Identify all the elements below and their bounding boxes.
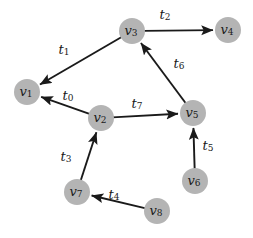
nodes-layer: v1v2v3v4v5v6v7v8 <box>14 17 241 224</box>
edge-t2 <box>143 30 213 31</box>
edge-label-t0: t0 <box>63 88 74 104</box>
edge-label-t5: t5 <box>203 138 214 154</box>
edge-t6 <box>141 43 186 104</box>
node-circle-v3 <box>119 18 145 44</box>
node-v5: v5 <box>180 100 206 126</box>
node-v1: v1 <box>14 79 40 105</box>
node-v7: v7 <box>64 179 90 205</box>
edge-t0 <box>41 97 90 114</box>
node-v4: v4 <box>215 17 241 43</box>
edge-label-t6: t6 <box>174 56 185 72</box>
edge-t3 <box>81 132 97 181</box>
node-v3: v3 <box>119 18 145 44</box>
edge-t1 <box>40 37 122 85</box>
node-circle-v1 <box>14 79 40 105</box>
node-circle-v2 <box>88 105 114 131</box>
edge-label-t2: t2 <box>160 7 171 23</box>
edge-label-t3: t3 <box>61 149 72 165</box>
node-v2: v2 <box>88 105 114 131</box>
edge-label-t7: t7 <box>132 96 143 112</box>
node-circle-v4 <box>215 17 241 43</box>
node-circle-v5 <box>180 100 206 126</box>
edge-t7 <box>112 114 178 118</box>
graph-canvas: v1v2v3v4v5v6v7v8 t0t1t2t3t4t5t6t7 <box>0 0 253 238</box>
node-v8: v8 <box>144 198 170 224</box>
node-circle-v7 <box>64 179 90 205</box>
node-v6: v6 <box>182 168 208 194</box>
edge-t4 <box>92 195 146 208</box>
node-circle-v6 <box>182 168 208 194</box>
node-circle-v8 <box>144 198 170 224</box>
edge-label-t1: t1 <box>59 42 70 58</box>
edge-t5 <box>193 128 194 170</box>
graph-diagram: v1v2v3v4v5v6v7v8 t0t1t2t3t4t5t6t7 <box>0 0 253 238</box>
